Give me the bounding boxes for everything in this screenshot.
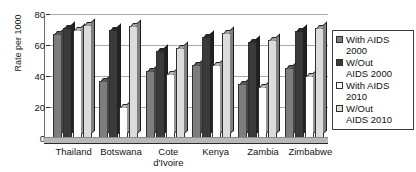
bar-groups	[50, 14, 328, 138]
legend-swatch-icon	[336, 82, 343, 89]
chart-legend: With AIDS 2000W/Out AIDS 2000With AIDS 2…	[332, 30, 414, 130]
bar[interactable]	[119, 107, 128, 138]
bar[interactable]	[212, 65, 221, 138]
bar-slot	[129, 14, 139, 138]
bar-slot	[83, 14, 93, 138]
legend-item[interactable]: With AIDS 2010	[336, 80, 410, 102]
bar[interactable]	[238, 84, 247, 138]
chart-screenshot: Rate per 1000 806040200 ThailandBotswana…	[0, 0, 416, 172]
bar[interactable]	[222, 33, 231, 138]
bar[interactable]	[258, 87, 267, 138]
x-axis-label: Kenya	[192, 146, 239, 168]
bar[interactable]	[176, 48, 185, 138]
bar[interactable]	[295, 31, 304, 138]
legend-item[interactable]: W/Out AIDS 2010	[336, 103, 410, 125]
legend-item[interactable]: With AIDS 2000	[336, 34, 410, 56]
y-tick-label: 60	[34, 40, 45, 51]
bar-slot	[176, 14, 186, 138]
y-tick-label: 80	[34, 9, 45, 20]
x-axis-labels: ThailandBotswanaCote d'IvoireKenyaZambia…	[50, 146, 334, 168]
bar-slot	[295, 14, 305, 138]
x-axis-label: Botswana	[97, 146, 144, 168]
bar[interactable]	[268, 40, 277, 138]
x-axis-label: Zimbabwe	[287, 146, 334, 168]
bar[interactable]	[285, 68, 294, 138]
legend-item[interactable]: W/Out AIDS 2000	[336, 57, 410, 79]
bar-slot	[305, 14, 315, 138]
y-tick-label: 40	[34, 71, 45, 82]
bar-slot	[285, 14, 295, 138]
bar[interactable]	[166, 74, 175, 138]
bar-group	[143, 14, 189, 138]
bar[interactable]	[146, 71, 155, 138]
bar-slot	[166, 14, 176, 138]
bar-slot	[248, 14, 258, 138]
bar-slot	[192, 14, 202, 138]
legend-swatch-icon	[336, 59, 343, 66]
legend-label: W/Out AIDS 2000	[346, 57, 392, 79]
bar-slot	[73, 14, 83, 138]
bar[interactable]	[73, 30, 82, 139]
bar-slot	[268, 14, 278, 138]
bar[interactable]	[202, 37, 211, 138]
bar-slot	[63, 14, 73, 138]
bar[interactable]	[63, 28, 72, 138]
bar-slot	[119, 14, 129, 138]
bar[interactable]	[53, 34, 62, 138]
legend-label: With AIDS 2000	[346, 34, 389, 56]
bar-slot	[212, 14, 222, 138]
bar-slot	[258, 14, 268, 138]
bar-slot	[99, 14, 109, 138]
bar-slot	[238, 14, 248, 138]
bar[interactable]	[99, 81, 108, 138]
bar[interactable]	[315, 28, 324, 138]
bar-slot	[222, 14, 232, 138]
bar-group	[189, 14, 235, 138]
legend-label: With AIDS 2010	[346, 80, 389, 102]
bar-group	[50, 14, 96, 138]
plot-area: 806040200	[44, 14, 328, 144]
legend-swatch-icon	[336, 105, 343, 112]
bar[interactable]	[192, 65, 201, 138]
bar-slot	[156, 14, 166, 138]
x-axis-label: Thailand	[50, 146, 97, 168]
bar[interactable]	[248, 42, 257, 138]
bar[interactable]	[83, 25, 92, 138]
bar-slot	[53, 14, 63, 138]
bar-slot	[315, 14, 325, 138]
bar-group	[235, 14, 281, 138]
x-axis-label: Cote d'Ivoire	[145, 146, 192, 168]
x-axis-line	[44, 143, 328, 144]
bar[interactable]	[129, 26, 138, 138]
legend-swatch-icon	[336, 36, 343, 43]
bar[interactable]	[156, 51, 165, 138]
x-axis-label: Zambia	[239, 146, 286, 168]
bar-slot	[146, 14, 156, 138]
bar[interactable]	[109, 30, 118, 139]
bar[interactable]	[305, 76, 314, 138]
legend-label: W/Out AIDS 2010	[346, 103, 392, 125]
bar-group	[282, 14, 328, 138]
bar-group	[96, 14, 142, 138]
bar-slot	[202, 14, 212, 138]
bar-slot	[109, 14, 119, 138]
y-axis-title: Rate per 1000	[13, 0, 23, 93]
y-tick-label: 20	[34, 102, 45, 113]
